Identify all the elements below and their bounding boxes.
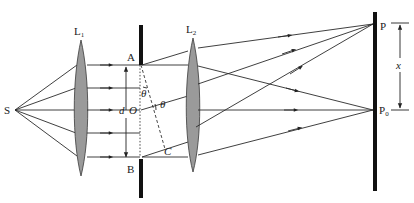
label-theta-upper: θ bbox=[141, 87, 147, 99]
label-theta-lower: θ bbox=[160, 98, 166, 110]
source-rays bbox=[15, 65, 77, 156]
label-slit-b: B bbox=[127, 163, 134, 175]
label-p: P bbox=[380, 20, 386, 32]
label-lens2: L2 bbox=[186, 23, 197, 37]
slit-barrier-top bbox=[139, 25, 143, 65]
label-slit-a: A bbox=[127, 51, 135, 63]
label-x: x bbox=[395, 59, 401, 71]
double-slit-diagram: S L1 L2 A B d O θ θ C P P0 x bbox=[0, 0, 414, 203]
angle-arc-lower bbox=[155, 104, 156, 110]
screen bbox=[373, 12, 377, 191]
label-lens1: L1 bbox=[74, 25, 85, 39]
label-o: O bbox=[129, 104, 137, 116]
lens-l2 bbox=[186, 38, 200, 172]
label-d: d bbox=[119, 104, 125, 116]
slit-barrier-bottom bbox=[139, 159, 143, 198]
label-p0: P0 bbox=[379, 104, 389, 118]
focused-rays bbox=[196, 24, 373, 155]
label-c: C bbox=[164, 145, 172, 157]
label-source: S bbox=[4, 104, 10, 116]
